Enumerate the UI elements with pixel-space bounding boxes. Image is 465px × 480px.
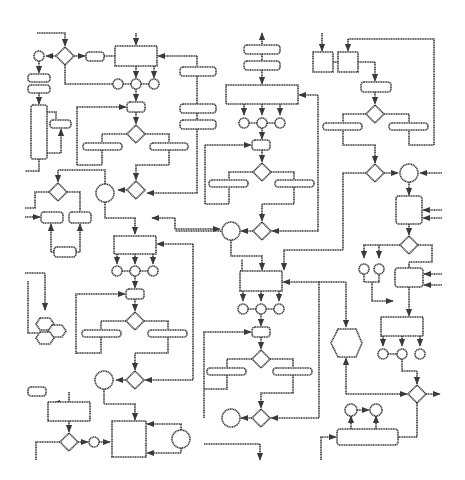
- hexagon: [331, 329, 362, 357]
- pill: [273, 368, 312, 375]
- decision-diamond: [126, 312, 144, 330]
- pill: [180, 104, 216, 113]
- process-box: [114, 236, 156, 254]
- process-box: [381, 317, 423, 336]
- decision-diamond: [366, 105, 384, 123]
- node-circle: [96, 184, 114, 202]
- cluster-upper-mid-left: [25, 89, 220, 257]
- node-circle: [34, 51, 44, 61]
- decision-diamond: [56, 47, 74, 65]
- process-box: [115, 46, 157, 66]
- decision-diamond: [400, 236, 418, 254]
- cluster-top-left: [25, 33, 216, 193]
- decision-diamond: [253, 222, 271, 240]
- pill: [244, 45, 280, 54]
- pill: [389, 123, 428, 130]
- pill: [86, 52, 104, 61]
- process-box: [226, 85, 298, 104]
- pill: [148, 330, 187, 337]
- pill: [361, 82, 391, 92]
- decision-diamond: [408, 385, 426, 403]
- decision-diamond: [127, 125, 145, 143]
- node-circle: [95, 371, 113, 389]
- pill: [82, 330, 121, 337]
- decision-diamond: [60, 433, 78, 451]
- cluster-lower-left: [25, 236, 193, 460]
- square-box: [313, 52, 333, 72]
- pill: [180, 67, 216, 76]
- pill: [323, 123, 362, 130]
- node-circle: [222, 409, 240, 427]
- pill: [209, 180, 248, 187]
- pill: [180, 120, 216, 129]
- pill: [244, 61, 280, 70]
- decision-diamond: [252, 409, 270, 427]
- process-box: [240, 271, 282, 291]
- decision-diamond: [253, 163, 271, 181]
- decision-diamond: [252, 350, 270, 368]
- process-box: [395, 268, 423, 287]
- pill: [41, 212, 63, 223]
- node-circle: [172, 430, 190, 448]
- node-circle: [222, 222, 240, 240]
- process-box: [48, 402, 90, 421]
- decision-diamond: [126, 371, 144, 389]
- pill: [83, 143, 122, 150]
- process-box: [396, 196, 422, 224]
- pill: [150, 143, 188, 150]
- decision-diamond: [49, 183, 67, 201]
- column-box: [31, 105, 47, 159]
- pill: [28, 74, 50, 82]
- decision-diamond: [127, 181, 145, 199]
- pill: [275, 180, 314, 187]
- pill: [28, 387, 46, 396]
- pill: [69, 212, 91, 223]
- square-box: [112, 421, 146, 457]
- pill: [28, 85, 50, 93]
- pill: [252, 327, 270, 337]
- hexagon: [36, 332, 54, 344]
- pill: [54, 247, 76, 257]
- square-box: [338, 52, 358, 72]
- pill: [252, 140, 270, 150]
- decision-diamond: [366, 164, 384, 182]
- process-flow-diagram: [0, 0, 465, 480]
- pill: [126, 289, 144, 299]
- node-circle: [400, 164, 418, 182]
- pill: [207, 368, 246, 375]
- cluster-top-right: [284, 33, 442, 316]
- pill: [337, 429, 398, 445]
- pill: [50, 120, 71, 128]
- pill: [127, 102, 145, 112]
